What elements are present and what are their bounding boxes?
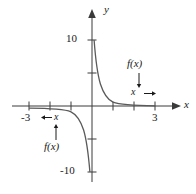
y-tick-label-10: 10 xyxy=(66,33,77,44)
y-tick-label--10: -10 xyxy=(60,165,75,176)
curve-left-branch xyxy=(29,108,90,172)
y-axis-arrowhead xyxy=(88,9,96,18)
right-direction-arrow xyxy=(144,91,156,95)
lower-label-pointer-arrow xyxy=(54,124,58,140)
upper-function-label: f(x) xyxy=(127,58,142,69)
x-tick-label-3: 3 xyxy=(152,112,158,123)
graph-canvas xyxy=(0,0,196,194)
curve-right-branch xyxy=(94,40,155,106)
lower-function-label: f(x) xyxy=(44,141,59,152)
x-axis-arrowhead xyxy=(172,102,181,110)
left-direction-arrow xyxy=(41,115,52,119)
rational-function-graph: y x 10 -10 -3 3 x x f(x) f(x) xyxy=(0,0,196,194)
upper-label-pointer-arrow xyxy=(137,73,141,88)
x-axis-label: x xyxy=(184,99,189,110)
y-axis-label: y xyxy=(104,4,109,15)
right-direction-label: x xyxy=(131,87,135,97)
left-direction-label: x xyxy=(54,112,58,122)
x-tick-label--3: -3 xyxy=(21,112,30,123)
